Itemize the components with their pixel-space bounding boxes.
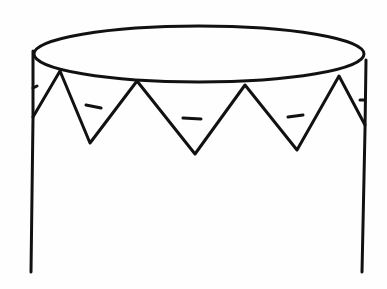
drum-right-side	[362, 60, 366, 272]
drum-left-tick	[33, 86, 37, 88]
dash-mark-1	[86, 105, 101, 108]
drum-left-side	[31, 51, 33, 272]
drum-drawing	[0, 0, 387, 289]
drum-illustration: Outline of a cylindrical drum with an el…	[0, 0, 387, 289]
dash-mark-2	[183, 118, 201, 119]
drum-top-ellipse	[34, 26, 364, 82]
dash-mark-3	[288, 115, 303, 117]
